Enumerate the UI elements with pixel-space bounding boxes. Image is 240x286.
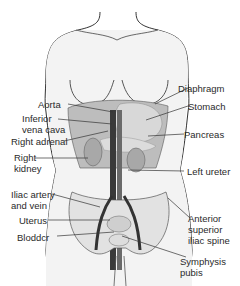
label-iliac-line2: and vein: [11, 200, 47, 211]
label-stomach: Stomach: [188, 101, 226, 112]
label-symphysis-line1: Symphysis: [180, 256, 226, 267]
label-uterus: Uterus: [19, 215, 47, 226]
label-diaphragm: Diaphragm: [178, 83, 224, 94]
label-symphysis-line2: pubis: [180, 267, 203, 278]
label-anterior-line1: Anterior: [188, 213, 221, 224]
label-right-kidney-line1: Right: [14, 152, 36, 163]
label-right-adrenal: Right adrenal: [11, 136, 68, 147]
label-inferior-vena-cava-line2: vena cava: [22, 124, 65, 135]
label-left-ureter: Left ureter: [187, 166, 230, 177]
label-pancreas: Pancreas: [184, 129, 224, 140]
label-anterior-line3: iliac spine: [188, 235, 230, 246]
anatomy-diagram: Diaphragm Aorta Stomach Inferior vena ca…: [0, 0, 240, 286]
label-iliac-line1: Iliac artery: [11, 189, 55, 200]
label-bladder: Bloddcr: [17, 232, 49, 243]
label-inferior-vena-cava-line1: Inferior: [22, 113, 52, 124]
label-anterior-line2: superior: [188, 224, 222, 235]
label-right-kidney-line2: kidney: [14, 163, 41, 174]
label-aorta: Aorta: [38, 99, 61, 110]
